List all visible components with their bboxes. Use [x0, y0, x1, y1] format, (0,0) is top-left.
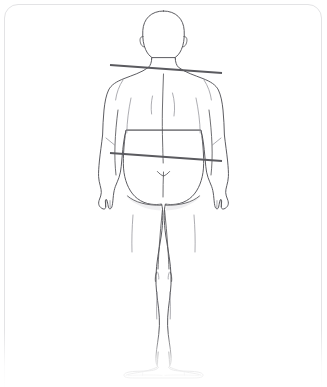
lower-body-and-legs — [123, 130, 203, 378]
right-thigh-outer-line — [194, 215, 195, 252]
head — [143, 11, 185, 60]
left-thigh-outer-line — [132, 215, 133, 252]
body-figure-svg: Shoulder width Waist / hip width — [0, 0, 327, 387]
left-calf-line — [157, 292, 158, 319]
right-calf-line — [170, 292, 171, 319]
diagram-root: Shoulder width Waist / hip width — [0, 0, 327, 387]
body-figure-container: Shoulder width Waist / hip width — [0, 0, 327, 387]
